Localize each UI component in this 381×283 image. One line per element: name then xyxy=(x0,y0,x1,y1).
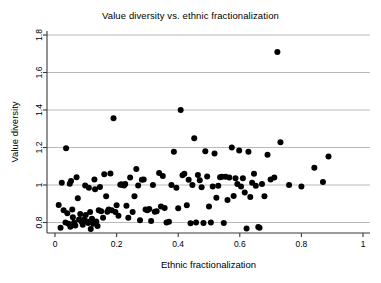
data-point xyxy=(274,49,280,55)
data-point xyxy=(193,220,199,226)
data-point xyxy=(146,206,152,212)
data-point xyxy=(175,205,181,211)
data-point xyxy=(171,149,177,155)
data-point xyxy=(107,170,113,176)
data-point xyxy=(253,183,259,189)
y-tick-label: 1.6 xyxy=(34,66,44,78)
data-point xyxy=(298,184,304,190)
data-point xyxy=(197,177,203,183)
data-point xyxy=(135,182,141,188)
data-point xyxy=(141,176,147,182)
data-point xyxy=(58,225,64,231)
data-point xyxy=(166,219,172,225)
data-point xyxy=(224,197,230,203)
data-point xyxy=(137,217,143,223)
data-point xyxy=(111,115,117,121)
data-point xyxy=(97,184,103,190)
data-point xyxy=(148,218,154,224)
data-point xyxy=(114,202,120,208)
data-point xyxy=(195,172,201,178)
data-point xyxy=(125,215,131,221)
data-point xyxy=(173,185,179,191)
data-point xyxy=(257,225,263,231)
data-point xyxy=(91,176,97,182)
y-tick-label: 1.4 xyxy=(34,104,44,116)
data-point xyxy=(103,193,109,199)
data-point xyxy=(206,203,212,209)
data-point xyxy=(154,208,160,214)
data-point xyxy=(68,178,74,184)
data-point xyxy=(265,152,271,158)
data-point xyxy=(162,205,168,211)
data-point xyxy=(210,184,216,190)
data-point xyxy=(236,148,242,154)
y-tick-label: 1.2 xyxy=(34,141,44,153)
data-point xyxy=(127,175,133,181)
data-point xyxy=(95,223,101,229)
y-tick-label: 0.8 xyxy=(34,216,44,228)
data-point xyxy=(188,220,194,226)
data-point xyxy=(311,165,317,171)
data-point xyxy=(326,154,332,160)
data-point xyxy=(59,180,65,186)
data-point xyxy=(229,145,235,151)
data-point xyxy=(242,190,248,196)
data-point xyxy=(226,175,232,181)
y-tick-label: 1.8 xyxy=(34,29,44,41)
data-point xyxy=(122,181,128,187)
data-point xyxy=(271,175,277,181)
data-point xyxy=(131,193,137,199)
x-tick-label: 0.4 xyxy=(172,239,184,249)
data-point xyxy=(251,171,257,177)
data-point xyxy=(75,195,81,201)
data-point xyxy=(213,195,219,201)
data-point xyxy=(123,203,129,209)
data-point xyxy=(56,202,62,208)
data-point xyxy=(63,145,69,151)
data-point xyxy=(150,182,156,188)
data-point xyxy=(200,220,206,226)
data-point xyxy=(133,166,139,172)
data-point xyxy=(70,214,76,220)
data-point xyxy=(231,193,237,199)
data-point xyxy=(320,179,326,185)
data-point xyxy=(259,181,265,187)
x-tick-label: 1 xyxy=(361,239,366,249)
data-point xyxy=(130,209,136,215)
data-point xyxy=(232,175,238,181)
data-point xyxy=(87,209,93,215)
data-point xyxy=(199,184,205,190)
data-point xyxy=(261,193,267,199)
data-point xyxy=(212,151,218,157)
data-point xyxy=(286,182,292,188)
x-tick-label: 0.8 xyxy=(295,239,307,249)
data-point xyxy=(202,148,208,154)
scatter-plot: 0.811.21.41.61.800.20.40.60.81Ethnic fra… xyxy=(0,0,381,283)
y-tick-label: 1 xyxy=(34,182,44,187)
data-point xyxy=(72,223,78,229)
data-point xyxy=(69,207,75,213)
data-point xyxy=(184,202,190,208)
data-point xyxy=(277,139,283,145)
x-tick-label: 0.2 xyxy=(111,239,123,249)
data-point xyxy=(86,185,92,191)
data-point xyxy=(74,174,80,180)
data-point xyxy=(189,182,195,188)
data-point xyxy=(247,194,253,200)
data-point xyxy=(64,210,70,216)
data-point xyxy=(191,135,197,141)
data-point xyxy=(178,107,184,113)
data-point xyxy=(101,171,107,177)
data-point xyxy=(238,184,244,190)
x-axis-title: Ethnic fractionalization xyxy=(161,259,256,270)
data-point xyxy=(245,149,251,155)
data-point xyxy=(98,208,104,214)
data-point xyxy=(100,215,106,221)
data-point xyxy=(204,173,210,179)
y-axis-title: Value diversity xyxy=(9,101,20,162)
data-point xyxy=(186,177,192,183)
data-point xyxy=(240,175,246,181)
data-point xyxy=(160,173,166,179)
data-point xyxy=(77,211,83,217)
x-tick-label: 0 xyxy=(53,239,58,249)
